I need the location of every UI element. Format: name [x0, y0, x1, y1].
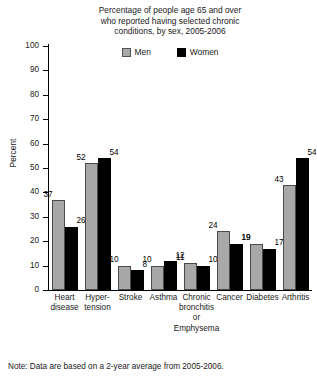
x-axis-category-label: Arthritis [267, 293, 317, 303]
bar-men[interactable] [118, 266, 131, 290]
y-axis-tick-label: 20 [15, 237, 39, 245]
bar-slot: 43 [283, 46, 296, 290]
y-axis-tick-label: 60 [15, 140, 39, 148]
bar-value-label: 43 [274, 176, 283, 184]
bar-women[interactable] [131, 270, 144, 290]
bar-group: 1012 [151, 46, 177, 290]
y-axis-tick-label: 40 [15, 188, 39, 196]
bar-women[interactable] [197, 266, 210, 290]
x-axis-line [48, 290, 312, 291]
chart-container: Percentage of people age 65 and over who… [0, 0, 316, 377]
bar-women[interactable] [230, 244, 243, 290]
bar-women[interactable] [98, 158, 111, 290]
bar-slot: 17 [263, 46, 276, 290]
bar-men[interactable] [52, 200, 65, 290]
y-axis-tick-label: 10 [15, 262, 39, 270]
bar-value-label: 52 [76, 154, 85, 162]
bar-men[interactable] [217, 231, 230, 290]
bar-men[interactable] [184, 263, 197, 290]
bar-group: 3726 [52, 46, 78, 290]
bar-value-label: 11 [176, 254, 185, 262]
category-label-line: tension [69, 303, 127, 313]
bar-slot: 19 [250, 46, 263, 290]
bar-women[interactable] [296, 158, 309, 290]
bar-slot: 54 [296, 46, 309, 290]
category-label-line: or [168, 313, 226, 323]
y-axis-tick [43, 290, 48, 291]
bar-slot: 10 [151, 46, 164, 290]
y-axis-tick-label: 100 [15, 42, 39, 50]
bar-slot: 19 [230, 46, 243, 290]
bar-value-label: 10 [109, 256, 118, 264]
bar-group: 4354 [283, 46, 309, 290]
bar-men[interactable] [283, 185, 296, 290]
bar-value-label: 24 [208, 222, 217, 230]
y-axis-tick-label: 30 [15, 213, 39, 221]
category-label-line: Arthritis [267, 293, 317, 303]
bar-women[interactable] [263, 249, 276, 290]
x-axis-category-labels: HeartdiseaseHyper-tensionStrokeAsthmaChr… [48, 293, 312, 355]
bar-slot: 10 [197, 46, 210, 290]
bar-value-label: 10 [142, 256, 151, 264]
plot-area: 3726525410810121110241919174354 [48, 46, 312, 290]
bar-group: 1917 [250, 46, 276, 290]
bar-slot: 10 [118, 46, 131, 290]
y-axis-tick-label: 70 [15, 115, 39, 123]
bar-slot: 8 [131, 46, 144, 290]
bar-group: 5254 [85, 46, 111, 290]
bar-slot: 26 [65, 46, 78, 290]
bar-group: 108 [118, 46, 144, 290]
chart-title-line-2: who reported having selected chronic [60, 16, 280, 27]
bar-group: 1110 [184, 46, 210, 290]
y-axis-title: Percent [8, 123, 18, 183]
chart-title-line-3: conditions, by sex, 2005-2006 [60, 26, 280, 37]
bar-women[interactable] [65, 227, 78, 290]
y-axis-tick-label: 90 [15, 66, 39, 74]
bar-group: 2419 [217, 46, 243, 290]
bar-slot: 12 [164, 46, 177, 290]
chart-title: Percentage of people age 65 and over who… [60, 5, 280, 37]
bar-men[interactable] [85, 163, 98, 290]
category-label-line: Emphysema [168, 324, 226, 334]
bar-slot: 24 [217, 46, 230, 290]
bar-men[interactable] [151, 266, 164, 290]
chart-title-line-1: Percentage of people age 65 and over [60, 5, 280, 16]
chart-footnote: Note: Data are based on a 2-year average… [8, 362, 308, 371]
bar-men[interactable] [250, 244, 263, 290]
category-label-line: bronchitis [168, 303, 226, 313]
bar-slot: 11 [184, 46, 197, 290]
bar-women[interactable] [164, 261, 177, 290]
bar-slot: 54 [98, 46, 111, 290]
bar-value-label: 19 [241, 234, 250, 242]
bar-value-label: 37 [43, 191, 52, 199]
bar-value-label: 54 [308, 149, 317, 157]
y-axis-tick-label: 50 [15, 164, 39, 172]
y-axis-tick-label: 80 [15, 91, 39, 99]
bar-slot: 37 [52, 46, 65, 290]
bar-slot: 52 [85, 46, 98, 290]
